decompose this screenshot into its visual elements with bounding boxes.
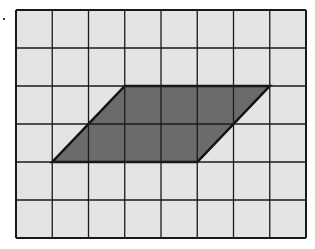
grid-diagram [0,0,315,249]
marker-dot [3,18,5,20]
